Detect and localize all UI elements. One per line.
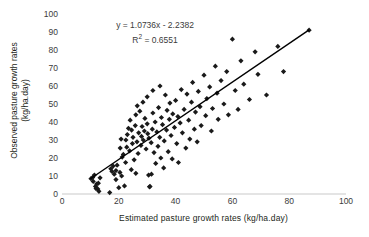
data-point: [118, 137, 123, 142]
data-point: [143, 146, 148, 151]
data-point: [151, 150, 156, 155]
data-point: [167, 117, 172, 122]
data-point: [233, 88, 238, 93]
y-tick-40: 40: [38, 117, 58, 127]
data-point: [116, 185, 121, 190]
data-point: [247, 97, 252, 102]
data-point: [162, 138, 167, 143]
y-tick-100: 100: [38, 9, 58, 19]
x-tick-60: 60: [220, 196, 244, 206]
data-point: [149, 140, 154, 145]
data-point: [163, 92, 168, 97]
data-point: [199, 123, 204, 128]
x-tick-40: 40: [164, 196, 188, 206]
data-point: [166, 149, 171, 154]
data-point: [140, 100, 145, 105]
data-point: [145, 94, 150, 99]
data-point: [150, 88, 155, 93]
data-point: [192, 127, 197, 132]
data-point: [235, 107, 240, 112]
data-point: [123, 137, 128, 142]
data-point: [230, 37, 235, 42]
data-point: [182, 107, 187, 112]
data-point: [218, 78, 223, 83]
y-tick-30: 30: [38, 135, 58, 145]
data-point: [180, 130, 185, 135]
data-point: [195, 139, 200, 144]
data-point: [142, 116, 147, 121]
data-point: [161, 165, 166, 170]
data-point: [281, 69, 286, 74]
y-tick-80: 80: [38, 45, 58, 55]
y-axis-title: Observed pasture growth rates (kg/ha.day…: [0, 0, 38, 200]
regression-equation: y = 1.0736x - 2.2382: [95, 20, 215, 31]
data-point: [150, 127, 155, 132]
data-point: [213, 64, 218, 69]
data-point: [136, 130, 141, 135]
data-point: [123, 160, 128, 165]
data-point: [130, 141, 135, 146]
data-point: [184, 92, 189, 97]
data-point: [168, 133, 173, 138]
data-point: [132, 157, 137, 162]
trendline: [90, 30, 309, 179]
data-point: [238, 58, 243, 63]
data-point: [221, 101, 226, 106]
data-point: [150, 110, 155, 115]
y-tick-60: 60: [38, 81, 58, 91]
data-point: [190, 80, 195, 85]
data-point: [187, 137, 192, 142]
y-tick-20: 20: [38, 153, 58, 163]
data-point: [173, 98, 178, 103]
y-tick-50: 50: [38, 99, 58, 109]
data-point: [226, 112, 231, 117]
data-point: [157, 83, 162, 88]
data-point: [125, 132, 130, 137]
scatter-chart: Observed pasture growth rates (kg/ha.day…: [0, 0, 369, 237]
data-point: [130, 135, 135, 140]
data-point: [133, 123, 138, 128]
data-point: [224, 69, 229, 74]
data-point: [124, 145, 129, 150]
data-point: [170, 156, 175, 161]
x-tick-80: 80: [277, 196, 301, 206]
data-point: [241, 82, 246, 87]
data-point: [114, 163, 119, 168]
data-point: [139, 124, 144, 129]
r-squared-number: = 0.6551: [142, 35, 178, 45]
y-axis-tick-labels: 0102030405060708090100: [34, 0, 58, 200]
data-point: [172, 125, 177, 130]
data-point: [118, 146, 123, 151]
y-axis-title-line1: Observed pasture growth rates: [9, 42, 20, 159]
data-point: [193, 110, 198, 115]
data-point: [207, 84, 212, 89]
x-axis-title: Estimated pasture growth rates (kg/ha.da…: [38, 213, 369, 223]
data-point: [176, 160, 181, 165]
x-axis-tick-labels: 020406080100: [0, 196, 369, 210]
data-point: [196, 89, 201, 94]
regression-annotation: y = 1.0736x - 2.2382 R2 = 0.6551: [95, 20, 215, 46]
data-point: [153, 119, 158, 124]
data-points-group: [88, 28, 311, 196]
data-point: [97, 175, 102, 180]
data-point: [133, 171, 138, 176]
data-point: [159, 115, 164, 120]
y-tick-10: 10: [38, 171, 58, 181]
r-squared-value: R2 = 0.6551: [95, 31, 215, 46]
data-point: [164, 108, 169, 113]
x-tick-0: 0: [50, 196, 74, 206]
data-point: [134, 139, 139, 144]
data-point: [178, 120, 183, 125]
data-point: [135, 103, 140, 108]
data-point: [203, 113, 208, 118]
data-point: [155, 144, 160, 149]
data-point: [209, 128, 214, 133]
data-point: [158, 155, 163, 160]
data-point: [216, 117, 221, 122]
data-point: [186, 118, 191, 123]
data-point: [170, 111, 175, 116]
data-point: [153, 161, 158, 166]
data-point: [145, 121, 150, 126]
data-point: [255, 72, 260, 77]
data-point: [156, 105, 161, 110]
